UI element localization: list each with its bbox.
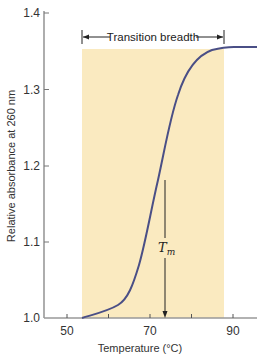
- x-axis-title: Temperature (°C): [98, 342, 182, 354]
- y-axis-title: Relative absorbance at 260 nm: [5, 90, 17, 242]
- transition-shaded-region: [82, 49, 224, 318]
- x-tick-70: 70: [143, 324, 157, 338]
- y-ticks: [44, 13, 49, 242]
- y-tick-1.1: 1.1: [23, 235, 40, 249]
- x-tick-50: 50: [60, 324, 74, 338]
- arrowhead-left: [83, 35, 89, 40]
- transition-breadth-label: Transition breadth: [107, 31, 199, 43]
- y-tick-1.4: 1.4: [23, 6, 40, 20]
- y-tick-1.2: 1.2: [23, 159, 40, 173]
- melting-curve-chart: 1.4 1.3 1.2 1.1 1.0 50 70 90 Temperature…: [0, 0, 269, 360]
- x-tick-90: 90: [226, 324, 240, 338]
- y-tick-1.0: 1.0: [23, 311, 40, 325]
- arrowhead-right: [217, 35, 223, 40]
- y-tick-1.3: 1.3: [23, 83, 40, 97]
